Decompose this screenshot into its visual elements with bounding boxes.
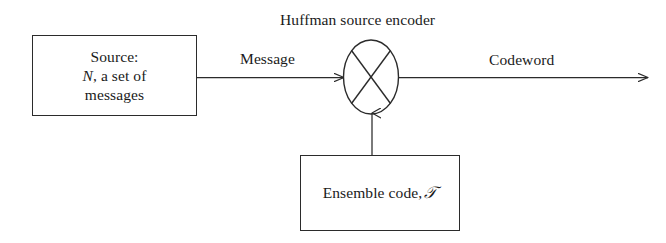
ensemble-code-node: Ensemble code,𝒯 (300, 155, 460, 231)
huffman-encoder-symbol (344, 40, 399, 114)
encoder-title-label: Huffman source encoder (280, 11, 435, 29)
source-line-2-rest: , a set of (93, 67, 147, 84)
block-diagram: Huffman source encoder Message Codeword … (0, 0, 666, 243)
message-edge-label: Message (240, 50, 295, 68)
source-node-text: Source: N, a set of messages (83, 47, 147, 105)
source-variable-n: N (83, 67, 93, 84)
source-line-1: Source: (83, 47, 147, 66)
source-node: Source: N, a set of messages (32, 35, 197, 116)
ensemble-code-variable-t: 𝒯 (422, 183, 437, 202)
source-line-2: N, a set of (83, 66, 147, 85)
ensemble-code-label: Ensemble code, (323, 184, 423, 201)
codeword-edge-label: Codeword (489, 51, 554, 69)
source-line-3: messages (83, 85, 147, 104)
ensemble-code-text: Ensemble code,𝒯 (323, 183, 438, 203)
